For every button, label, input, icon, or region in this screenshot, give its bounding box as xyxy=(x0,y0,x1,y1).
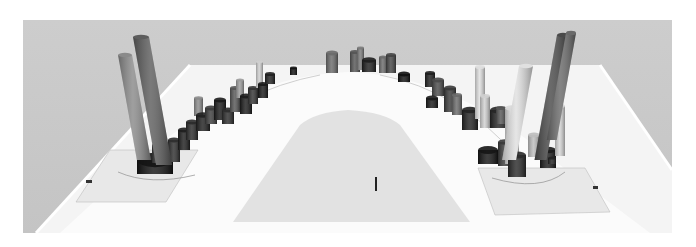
ground-marker xyxy=(375,177,377,191)
column-block xyxy=(258,82,268,98)
column-block xyxy=(496,106,506,124)
column-block xyxy=(478,146,498,164)
column-block xyxy=(452,93,462,115)
column-block xyxy=(362,57,376,72)
ground-marker xyxy=(86,180,92,183)
column-block xyxy=(326,51,338,73)
column-block xyxy=(248,86,258,104)
3d-track-scene xyxy=(0,0,696,247)
column-block xyxy=(265,72,275,84)
column-block xyxy=(379,55,387,73)
column-block xyxy=(290,67,297,75)
column-block xyxy=(432,78,444,96)
column-block xyxy=(398,72,410,82)
column-block xyxy=(426,96,438,108)
ground-marker xyxy=(593,186,598,189)
column-block xyxy=(386,53,396,73)
column-block xyxy=(548,156,556,164)
column-block xyxy=(480,94,490,128)
